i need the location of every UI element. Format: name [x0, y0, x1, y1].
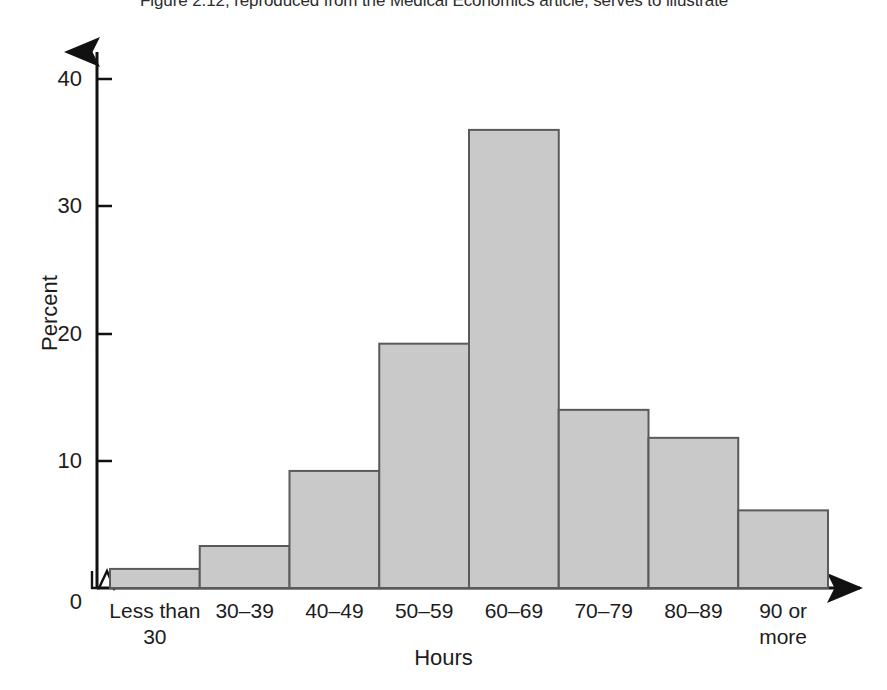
bar [649, 438, 739, 588]
bar [110, 569, 200, 588]
y-tick-label-30: 30 [20, 193, 82, 219]
bar-series [110, 130, 828, 588]
y-tick-label-0: 0 [20, 589, 82, 615]
y-axis-ticks [97, 79, 112, 461]
y-axis-title: Percent [37, 253, 63, 373]
bar [738, 510, 828, 588]
bar [559, 410, 649, 588]
bar [469, 130, 559, 588]
y-tick-label-10: 10 [20, 448, 82, 474]
y-tick-label-40: 40 [20, 66, 82, 92]
bar [200, 546, 290, 588]
bar [379, 344, 469, 588]
bar [290, 471, 380, 588]
plot-canvas [0, 0, 887, 690]
x-axis-category-label: 90 or more [726, 598, 840, 649]
x-axis-title: Hours [0, 645, 887, 671]
histogram-figure: 40 30 20 10 0 Percent Less than 3030–394… [0, 0, 887, 690]
